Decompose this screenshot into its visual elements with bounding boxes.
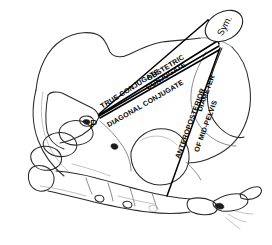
- label-promontory-p: P: [90, 118, 97, 130]
- pelvis-diagram-canvas: TRUE CONJUGATE OBSTETRIC CONJUGATE DIAGO…: [0, 0, 272, 245]
- pelvic-diameters-figure: TRUE CONJUGATE OBSTETRIC CONJUGATE DIAGO…: [0, 0, 272, 245]
- sacral-foramen-mark-2: [111, 144, 118, 150]
